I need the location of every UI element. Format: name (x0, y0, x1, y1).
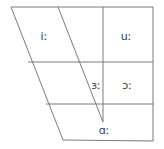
vowel-open-mid-back-long: ɔː (122, 80, 132, 91)
vowel-quadrilateral-chart: iː uː ɜː ɔː ɑː (0, 0, 164, 149)
vowel-chart-lines (0, 0, 164, 149)
quadrilateral-outline (11, 7, 153, 141)
vowel-u-long: uː (121, 31, 132, 42)
vowel-open-back-long: ɑː (99, 125, 110, 136)
vowel-i-long: iː (41, 31, 48, 42)
diagonal-front-central (58, 7, 103, 122)
vowel-open-mid-central-long: ɜː (91, 80, 101, 91)
